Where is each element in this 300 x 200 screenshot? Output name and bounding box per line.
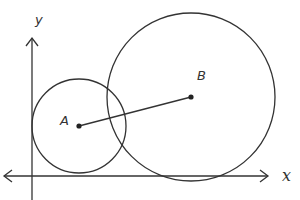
center-point-a (76, 123, 81, 128)
label-a: A (59, 113, 69, 128)
y-axis-label: y (34, 12, 43, 27)
label-b: B (197, 68, 206, 83)
center-point-b (188, 94, 193, 99)
x-axis-label: x (282, 166, 291, 185)
diagram-canvas: A B y x (0, 0, 300, 200)
segment-ab (79, 97, 191, 126)
diagram-svg: A B y x (0, 0, 300, 200)
